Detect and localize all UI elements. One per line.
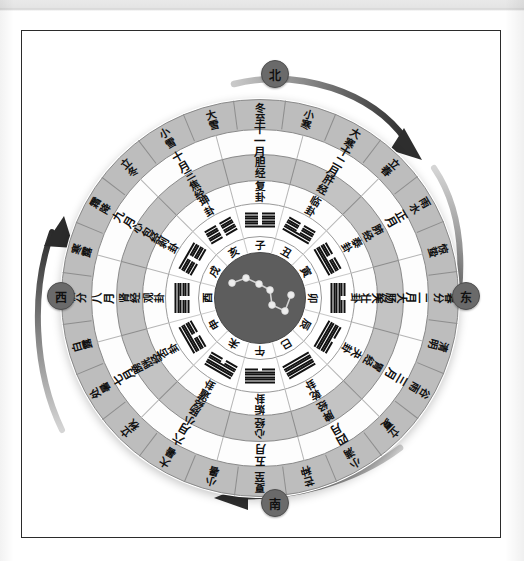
yang-line [245,374,275,376]
meridian-label-6: 心经 [255,418,266,439]
dipper-star-6 [288,292,295,299]
month-label-3: 二月 [405,292,428,304]
month-label-6: 五月 [254,443,266,466]
yin-line [245,220,275,222]
almanac-wheel: 冬至小寒大寒立春雨水惊蛰春分清明谷雨立夏小满芒种夏至小暑大暑立秋处暑白露秋分寒露… [60,98,460,498]
direction-label-east: 东 [460,288,472,305]
dipper-star-0 [229,280,236,287]
yang-line [245,382,275,384]
yin-line [344,283,346,313]
yin-line [185,283,187,313]
branch-label-6: 午 [255,344,266,359]
direction-marker-east: 东 [452,282,480,310]
hexagram-name-label-3: 大壮卦 [350,293,382,304]
yang-line [333,283,335,313]
yin-line [245,213,275,215]
hexagram-name-label-0: 复卦 [255,181,266,202]
yang-line [338,283,340,313]
yin-line [245,218,275,220]
direction-marker-west: 西 [47,282,75,310]
hexagram-name-label-6: 姤卦 [255,393,266,414]
hexagram-glyph-0 [245,213,275,228]
direction-label-west: 西 [55,288,67,305]
yin-line [180,283,182,313]
dipper-star-5 [282,308,289,315]
hexagram-glyph-3 [331,283,346,313]
yang-line [245,371,275,373]
direction-label-north: 北 [269,66,281,83]
hexagram-name-label-9: 观卦 [143,293,164,304]
yin-line [245,369,275,371]
solar-term-label-12: 夏至 [255,472,266,493]
branch-label-3: 卯 [306,293,321,304]
dipper-star-1 [243,275,250,282]
yang-line [245,376,275,378]
dipper-star-4 [269,302,276,309]
yin-line [188,283,190,313]
yang-line [331,283,333,313]
yin-line [245,223,275,225]
direction-marker-south: 南 [261,489,289,517]
yin-line [182,283,184,313]
yang-line [336,283,338,313]
yang-line [245,379,275,381]
dipper-star-2 [256,281,263,288]
hexagram-glyph-9 [175,283,190,313]
yang-line [175,283,177,313]
branch-label-9: 酉 [199,293,214,304]
yin-line [245,215,275,217]
branch-label-0: 子 [255,237,266,252]
yang-line [245,226,275,228]
hexagram-glyph-6 [245,369,275,384]
month-label-9: 八月 [92,292,115,304]
month-label-0: 十一月 [254,124,266,159]
meridian-label-9: 肾经 [119,293,140,304]
dipper-star-3 [267,287,274,294]
direction-label-south: 南 [269,495,281,512]
yang-line [177,283,179,313]
meridian-label-0: 胆经 [255,157,266,178]
yin-line [341,283,343,313]
direction-marker-north: 北 [261,60,289,88]
